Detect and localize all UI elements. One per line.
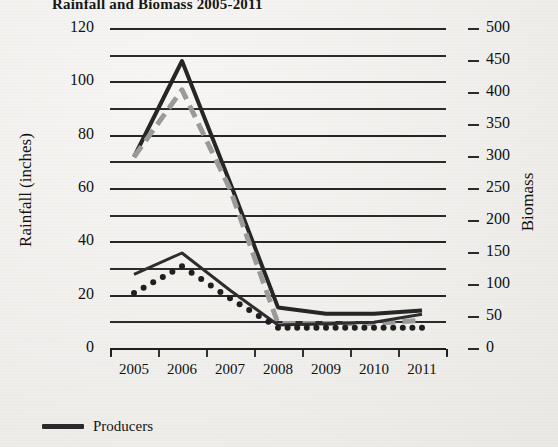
series-marker [141, 285, 147, 291]
series-marker [323, 325, 329, 331]
series-marker [352, 325, 358, 331]
series-marker [333, 325, 339, 331]
y-axis-right-tick-label: 200 [486, 210, 546, 228]
y-axis-right-tick-mark [468, 124, 479, 126]
series-marker [361, 325, 367, 331]
x-axis-tick-mark [350, 350, 352, 357]
series-marker [237, 301, 243, 307]
series-marker [217, 289, 223, 295]
y-axis-right-tick-label: 500 [486, 18, 546, 36]
y-axis-right-tick-mark [468, 284, 479, 286]
x-axis-tick-mark [398, 350, 400, 357]
y-axis-left-tick-label: 0 [34, 338, 94, 356]
y-axis-left-tick-label: 80 [34, 125, 94, 143]
x-axis-line [110, 348, 446, 350]
series-marker [150, 279, 156, 285]
x-axis-tick-label: 2011 [392, 361, 452, 378]
series-marker [208, 283, 214, 289]
legend: Producers [42, 418, 153, 435]
y-axis-right-tick-mark [468, 92, 479, 94]
y-axis-right-tick-mark [468, 156, 479, 158]
y-axis-right-tick-label: 150 [486, 242, 546, 260]
series-marker [294, 325, 300, 331]
series-marker [400, 325, 406, 331]
series-marker [304, 325, 310, 331]
series-marker [160, 274, 166, 280]
y-axis-right-tick-mark [468, 60, 479, 62]
series-marker [381, 325, 387, 331]
y-axis-right-tick-label: 350 [486, 114, 546, 132]
y-axis-right-tick-label: 300 [486, 146, 546, 164]
y-axis-right-tick-label: 50 [486, 306, 546, 324]
axis-end-stub [110, 349, 112, 356]
series-marker [419, 325, 425, 331]
series-marker [371, 325, 377, 331]
x-axis-tick-mark [302, 350, 304, 357]
series-marker [275, 325, 281, 331]
chart-figure: Rainfall and Biomass 2005-2011 Rainfall … [0, 0, 558, 447]
y-axis-right-tick-label: 0 [486, 338, 546, 356]
y-axis-left-tick-label: 120 [34, 18, 94, 36]
series-layer [110, 29, 446, 349]
y-axis-right-tick-label: 400 [486, 82, 546, 100]
plot-area [110, 29, 446, 349]
legend-label-producers: Producers [93, 418, 153, 435]
legend-swatch-producers [42, 424, 84, 429]
series-marker [409, 325, 415, 331]
series-marker [179, 263, 185, 269]
series-marker [256, 313, 262, 319]
x-axis-ticks: 2005200620072008200920102011 [0, 355, 558, 385]
y-axis-right-tick-mark [468, 316, 479, 318]
x-axis-tick-mark [206, 350, 208, 357]
y-axis-right-tick-label: 450 [486, 50, 546, 68]
x-axis-tick-mark [158, 350, 160, 357]
series-marker [390, 325, 396, 331]
series-marker [342, 325, 348, 331]
y-axis-right-tick-mark [468, 188, 479, 190]
y-axis-right-tick-label: 250 [486, 178, 546, 196]
y-axis-left-tick-label: 60 [34, 178, 94, 196]
y-axis-left-tick-label: 20 [34, 285, 94, 303]
x-axis-tick-mark [254, 350, 256, 357]
y-axis-left-tick-label: 100 [34, 71, 94, 89]
series-marker [131, 290, 137, 296]
y-axis-left-tick-label: 40 [34, 231, 94, 249]
series-marker [285, 325, 291, 331]
y-axis-right-tick-mark [468, 348, 479, 350]
series-marker [265, 319, 271, 325]
series-marker [313, 325, 319, 331]
series-line [134, 90, 422, 324]
series-marker [198, 276, 204, 282]
y-axis-left-title: Rainfall (inches) [16, 90, 36, 290]
series-marker [227, 295, 233, 301]
y-axis-right-tick-mark [468, 252, 479, 254]
series-marker [246, 307, 252, 313]
series-marker [189, 270, 195, 276]
y-axis-right-tick-mark [468, 220, 479, 222]
y-axis-right-tick-label: 100 [486, 274, 546, 292]
series-marker [169, 269, 175, 275]
axis-end-stub [446, 349, 448, 356]
y-axis-right-tick-mark [468, 28, 479, 30]
